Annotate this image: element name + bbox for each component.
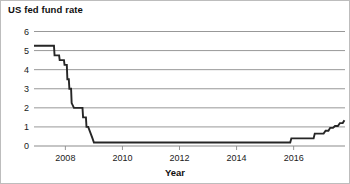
y-tick-label-2: 2 xyxy=(24,103,29,113)
y-tick-label-1: 1 xyxy=(24,122,29,132)
y-tick-label-6: 6 xyxy=(24,27,29,37)
x-axis-ticks xyxy=(65,146,293,150)
y-tick-label-0: 0 xyxy=(24,141,29,151)
x-tick-label-2014: 2014 xyxy=(227,153,247,163)
y-tick-label-3: 3 xyxy=(24,84,29,94)
line-chart-plot: 0123456 20082010201220142016 xyxy=(1,1,350,184)
x-axis-tick-labels: 20082010201220142016 xyxy=(55,153,303,163)
x-tick-label-2010: 2010 xyxy=(112,153,132,163)
x-tick-label-2012: 2012 xyxy=(169,153,189,163)
x-axis-label: Year xyxy=(1,167,349,178)
chart-container: US fed fund rate 0123456 200820102012201… xyxy=(0,0,350,184)
y-tick-label-4: 4 xyxy=(24,65,29,75)
x-tick-label-2016: 2016 xyxy=(284,153,304,163)
fed-funds-rate-line xyxy=(34,46,344,143)
y-tick-label-5: 5 xyxy=(24,46,29,56)
gridlines xyxy=(34,32,345,147)
x-tick-label-2008: 2008 xyxy=(55,153,75,163)
y-axis-tick-labels: 0123456 xyxy=(24,27,29,152)
